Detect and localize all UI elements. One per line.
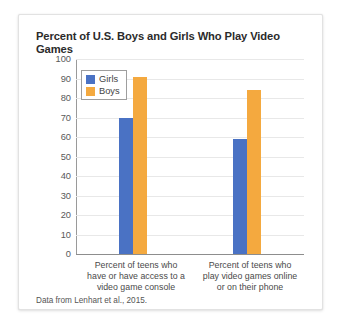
- x-axis-category-label-line: Percent of teens who: [77, 260, 195, 271]
- gridline: [76, 196, 304, 197]
- x-axis-category-label-line: or on their phone: [191, 282, 309, 293]
- bar-girls-0: [119, 118, 133, 255]
- x-axis-category-label-line: video game console: [77, 282, 195, 293]
- chart-card: Percent of U.S. Boys and Girls Who Play …: [18, 14, 323, 310]
- x-axis-category-label: Percent of teens whoplay video games onl…: [191, 260, 309, 294]
- gridline: [76, 157, 304, 158]
- y-axis-tick-label: 100: [55, 54, 71, 64]
- x-axis-category-label-line: have or have access to a: [77, 271, 195, 282]
- legend-label-boys: Boys: [99, 86, 120, 96]
- legend-swatch-boys-icon: [86, 87, 95, 96]
- gridline: [76, 176, 304, 177]
- bar-girls-1: [233, 139, 247, 254]
- gridline: [76, 59, 304, 60]
- gridline: [76, 235, 304, 236]
- y-axis-tick-label: 60: [61, 132, 71, 142]
- x-axis-category-label-line: Percent of teens who: [191, 260, 309, 271]
- legend-item-boys: Boys: [86, 86, 120, 96]
- y-axis-tick-label: 40: [61, 171, 71, 181]
- plot-area: 1009080706050403020100 Girls Boys: [76, 59, 304, 255]
- source-note: Data from Lenhart et al., 2015.: [36, 296, 147, 305]
- y-axis-tick-label: 70: [61, 113, 71, 123]
- x-axis-category-label: Percent of teens whohave or have access …: [77, 260, 195, 294]
- y-axis-tick-label: 0: [66, 249, 71, 259]
- legend-swatch-girls-icon: [86, 75, 95, 84]
- y-axis-tick-label: 50: [61, 152, 71, 162]
- y-axis-tick-label: 20: [61, 210, 71, 220]
- gridline: [76, 215, 304, 216]
- bar-boys-1: [247, 90, 261, 254]
- gridline: [76, 118, 304, 119]
- y-axis-tick-label: 10: [61, 230, 71, 240]
- gridline: [76, 137, 304, 138]
- y-axis-tick-label: 30: [61, 191, 71, 201]
- bar-boys-0: [133, 77, 147, 254]
- chart-legend: Girls Boys: [81, 70, 127, 100]
- y-axis-tick-label: 90: [61, 74, 71, 84]
- y-axis-tick-label: 80: [61, 93, 71, 103]
- legend-item-girls: Girls: [86, 74, 120, 84]
- x-axis-category-label-line: play video games online: [191, 271, 309, 282]
- legend-label-girls: Girls: [99, 74, 118, 84]
- x-axis-line: [76, 254, 304, 255]
- chart-title: Percent of U.S. Boys and Girls Who Play …: [36, 30, 316, 56]
